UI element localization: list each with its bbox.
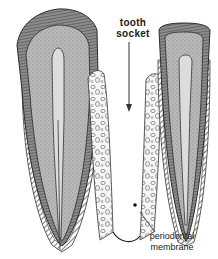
left-tooth xyxy=(17,9,100,252)
tooth-socket-arrow xyxy=(126,42,132,112)
right-tooth xyxy=(158,23,210,246)
tooth-socket-label-line1: tooth xyxy=(108,17,158,28)
periodontal-label-line1: periodontal xyxy=(140,231,204,242)
periodontal-membrane-label: periodontal membrane xyxy=(140,231,204,253)
tooth-diagram: tooth socket periodontal membrane xyxy=(0,0,218,259)
alveolar-bone xyxy=(88,71,162,242)
tooth-socket-label: tooth socket xyxy=(108,17,158,39)
tooth-socket-label-line2: socket xyxy=(108,28,158,39)
socket-floor xyxy=(113,232,140,242)
periodontal-label-line2: membrane xyxy=(140,242,204,253)
